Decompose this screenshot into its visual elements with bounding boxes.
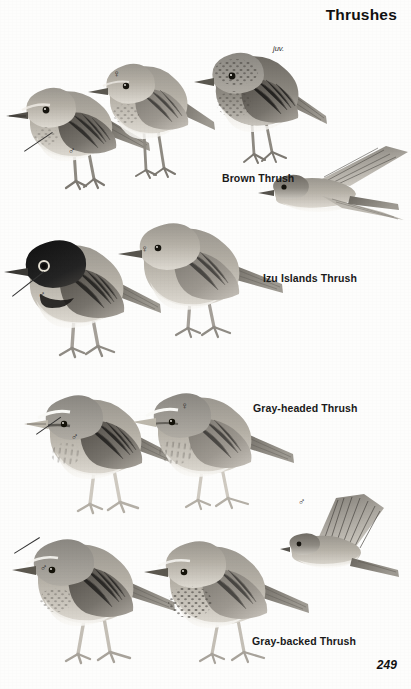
symbol-male-brown-thrush: ♂ (68, 146, 76, 156)
bill (88, 88, 108, 95)
bird-izu-islands-thrush-female (112, 196, 287, 346)
eye (281, 184, 286, 189)
breast-spotting (40, 588, 72, 612)
field-guide-plate: Thrushes (0, 0, 411, 689)
symbol-male-izu-islands-thrush: ♂ (38, 290, 46, 300)
bill (132, 418, 156, 427)
bill (280, 547, 290, 552)
eye (49, 567, 56, 574)
symbol-male-gray-headed-thrush: ♂ (71, 432, 79, 442)
symbol-male-gray-backed-thrush: ♂ (40, 563, 48, 573)
eye (169, 419, 175, 425)
bird-gray-backed-thrush-flight (280, 492, 410, 602)
flank-streaks (51, 443, 81, 465)
breast-markings (113, 104, 139, 124)
feet (186, 498, 248, 509)
page-number: 249 (377, 658, 397, 672)
bill (118, 250, 142, 258)
feet (136, 168, 175, 178)
symbol-male-gray-backed-thrush-flight: ♂ (298, 497, 306, 507)
symbol-female-izu-islands-thrush: ♀ (141, 244, 149, 254)
symbol-female-gray-headed-thrush: ♀ (181, 401, 189, 411)
feet (60, 346, 114, 357)
head (140, 223, 200, 270)
head (26, 88, 76, 128)
head (289, 533, 320, 555)
juvenile-annotation: juv. (273, 44, 284, 53)
species-label-brown-thrush: Brown Thrush (222, 172, 294, 184)
flank-streaks (159, 440, 193, 464)
breast-spotting (168, 586, 212, 618)
eye (229, 73, 236, 80)
feet (66, 652, 130, 663)
tail (350, 558, 399, 577)
bill (144, 568, 168, 577)
eye (181, 569, 188, 576)
eye (123, 83, 129, 89)
page-title: Thrushes (326, 6, 397, 24)
eye (61, 421, 67, 427)
species-label-gray-headed-thrush: Gray-headed Thrush (253, 402, 358, 414)
species-label-gray-backed-thrush: Gray-backed Thrush (252, 635, 356, 647)
bill (12, 566, 36, 575)
bill (4, 268, 28, 276)
symbol-female-brown-thrush: ♀ (113, 69, 121, 79)
feet (200, 652, 264, 663)
head-black (26, 240, 86, 288)
species-label-izu-islands-thrush: Izu Islands Thrush (263, 272, 357, 284)
head (166, 541, 226, 588)
eye (41, 263, 46, 268)
feet (176, 327, 230, 337)
eye (43, 107, 50, 114)
far-wing (320, 146, 408, 186)
bill (194, 78, 214, 86)
eye (297, 542, 302, 547)
eye (155, 245, 162, 252)
bill (6, 112, 28, 119)
